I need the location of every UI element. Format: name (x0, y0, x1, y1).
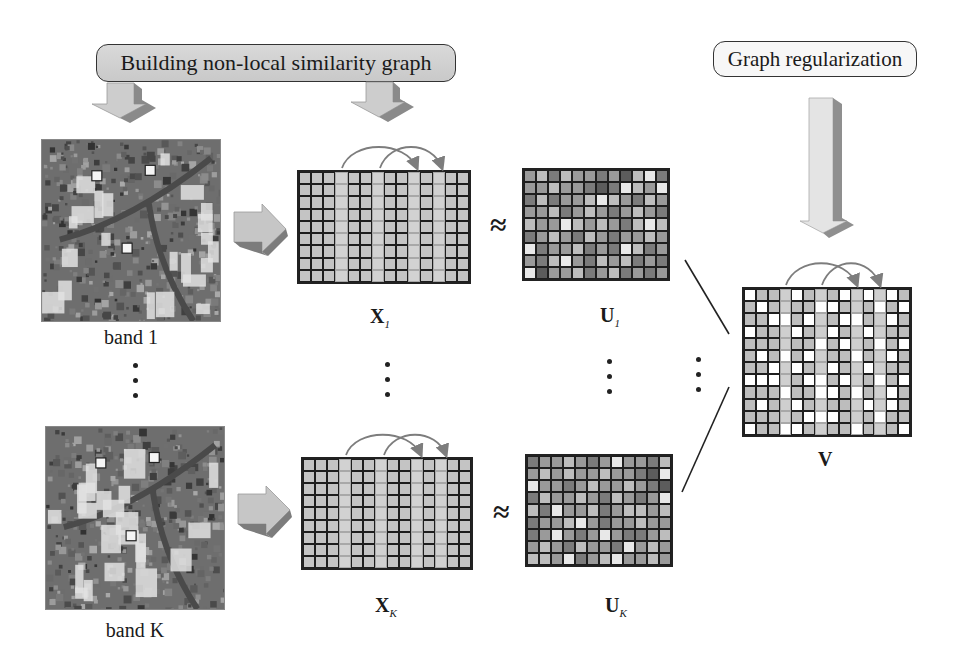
matrix-cell (433, 233, 445, 245)
matrix-cell (396, 184, 408, 196)
matrix-cell (420, 221, 432, 233)
matrix-cell (375, 483, 387, 495)
matrix-cell (874, 411, 886, 423)
matrix-cell (863, 399, 875, 411)
matrix-cell (399, 544, 411, 556)
similarity-links-x1 (342, 147, 442, 168)
build-graph-label: Building non-local similarity graph (120, 50, 431, 76)
matrix-cell (408, 172, 420, 184)
matrix-cell (348, 209, 360, 221)
matrix-cell (659, 456, 671, 468)
matrix-cell (608, 170, 620, 182)
matrix-cell (536, 206, 548, 218)
matrix-cell (372, 209, 384, 221)
matrix-cell (445, 270, 457, 282)
matrix-cell (539, 529, 551, 541)
matrix-cell (898, 386, 910, 398)
matrix-cell (791, 423, 803, 435)
matrix-cell (839, 423, 851, 435)
matrix-cell (527, 468, 539, 480)
matrix-cell (536, 218, 548, 230)
matrix-cell (572, 267, 584, 279)
matrix-cell (635, 480, 647, 492)
matrix-cell (584, 170, 596, 182)
matrix-cell (587, 480, 599, 492)
matrix-cell (384, 184, 396, 196)
similarity-links-xk (346, 435, 446, 455)
matrix-cell (827, 411, 839, 423)
matrix-cell (851, 301, 863, 313)
matrix-cell (399, 483, 411, 495)
matrix-cell (647, 529, 659, 541)
matrix-cell (815, 313, 827, 325)
matrix-cell (560, 182, 572, 194)
matrix-cell (827, 326, 839, 338)
matrix-cell (360, 172, 372, 184)
matrix-cell (803, 338, 815, 350)
matrix-cell (339, 507, 351, 519)
matrix-cell (527, 480, 539, 492)
matrix-cell (399, 459, 411, 471)
matrix-cell (411, 532, 423, 544)
matrix-cell (815, 350, 827, 362)
matrix-cell (584, 255, 596, 267)
matrix-cell (596, 218, 608, 230)
matrix-cell (815, 301, 827, 313)
matrix-cell (827, 313, 839, 325)
matrix-cell (599, 456, 611, 468)
matrix-cell (527, 504, 539, 516)
matrix-cell (527, 529, 539, 541)
matrix-cell (791, 362, 803, 374)
matrix-cell (791, 338, 803, 350)
matrix-cell (447, 495, 459, 507)
matrix-cell (791, 411, 803, 423)
matrix-cell (372, 184, 384, 196)
matrix-cell (599, 480, 611, 492)
matrix-cell (886, 399, 898, 411)
matrix-cell (623, 553, 635, 565)
matrix-cell (644, 255, 656, 267)
matrix-cell (647, 480, 659, 492)
matrix-cell (656, 206, 668, 218)
matrix-cell (411, 544, 423, 556)
matrix-cell (433, 172, 445, 184)
matrix-cell (560, 255, 572, 267)
matrix-cell (898, 423, 910, 435)
matrix-cell (780, 326, 792, 338)
matrix-cell (396, 172, 408, 184)
matrix-cell (411, 459, 423, 471)
matrix-cell (635, 468, 647, 480)
matrix-cell (408, 233, 420, 245)
matrix-cell (756, 386, 768, 398)
matrix-cell (744, 338, 756, 350)
matrix-cell (339, 459, 351, 471)
band-k-image (45, 426, 225, 610)
matrix-cell (323, 245, 335, 257)
matrix-cell (524, 231, 536, 243)
matrix-cell (435, 483, 447, 495)
matrix-cell (584, 206, 596, 218)
matrix-cell (408, 221, 420, 233)
matrix-cell (608, 218, 620, 230)
matrix-cell (396, 221, 408, 233)
matrix-cell (447, 507, 459, 519)
matrix-cell (623, 504, 635, 516)
matrix-cell (548, 170, 560, 182)
matrix-cell (827, 350, 839, 362)
matrix-cell (608, 206, 620, 218)
matrix-cell (635, 517, 647, 529)
matrix-cell (575, 541, 587, 553)
matrix-cell (886, 326, 898, 338)
matrix-cell (548, 267, 560, 279)
matrix-cell (351, 495, 363, 507)
matrix-cell (323, 209, 335, 221)
matrix-cell (408, 209, 420, 221)
matrix-cell (323, 196, 335, 208)
matrix-cell (815, 289, 827, 301)
matrix-cell (768, 326, 780, 338)
matrix-cell (839, 386, 851, 398)
matrix-cell (539, 480, 551, 492)
right-arrow-bandk (238, 486, 292, 538)
matrix-cell (620, 255, 632, 267)
matrix-cell (384, 221, 396, 233)
